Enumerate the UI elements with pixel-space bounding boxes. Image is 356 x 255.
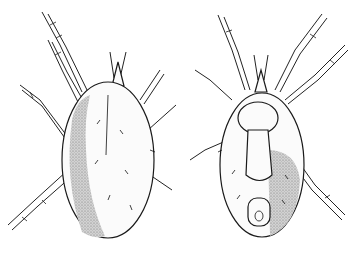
mite-illustration [0,0,356,255]
ventral-genital-plate [246,130,272,181]
ventral-sternal-plate [238,102,278,134]
ventral-anal-plate [248,198,270,226]
dorsal-mite [8,12,176,238]
ventral-mite [190,14,348,237]
